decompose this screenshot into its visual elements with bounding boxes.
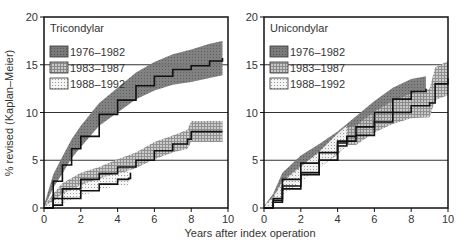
x-axis-label: Years after index operation [150,227,350,239]
legend-label: 1988–1992 [70,78,125,90]
y-tick-label: 20 [246,11,258,23]
panel-tricondylar: 051015200246810Tricondylar1976–19821983–… [26,11,234,225]
y-tick-label: 0 [252,202,258,214]
x-tick-label: 2 [78,213,84,225]
x-tick-label: 0 [261,213,267,225]
legend-label: 1983–1987 [290,62,345,74]
ci-band-light [264,126,347,208]
x-tick-label: 8 [188,213,194,225]
y-tick-label: 10 [26,107,38,119]
x-tick-label: 10 [442,213,454,225]
y-axis-label: % revised (Kaplan–Meier) [3,48,15,178]
legend-label: 1988–1992 [290,78,345,90]
x-tick-label: 4 [335,213,341,225]
x-tick-label: 6 [371,213,377,225]
legend-swatch [270,62,288,73]
y-tick-label: 5 [32,154,38,166]
legend-swatch [270,46,288,57]
panel-unicondylar: 051015200246810Unicondylar1976–19821983–… [246,11,454,225]
y-tick-label: 15 [246,59,258,71]
legend-label: 1976–1982 [70,46,125,58]
y-tick-label: 0 [32,202,38,214]
x-tick-label: 2 [298,213,304,225]
legend-swatch [50,46,68,57]
legend-swatch [50,62,68,73]
y-tick-label: 5 [252,154,258,166]
panel-title: Unicondylar [270,22,328,34]
panel-title: Tricondylar [50,22,104,34]
legend-label: 1976–1982 [290,46,345,58]
legend-swatch [50,78,68,89]
x-tick-label: 6 [151,213,157,225]
x-tick-label: 8 [408,213,414,225]
legend-label: 1983–1987 [70,62,125,74]
figure: 051015200246810Tricondylar1976–19821983–… [0,0,463,248]
y-tick-label: 10 [246,107,258,119]
y-tick-label: 15 [26,59,38,71]
x-tick-label: 10 [222,213,234,225]
x-tick-label: 4 [115,213,121,225]
x-tick-label: 0 [41,213,47,225]
legend-swatch [270,78,288,89]
y-tick-label: 20 [26,11,38,23]
